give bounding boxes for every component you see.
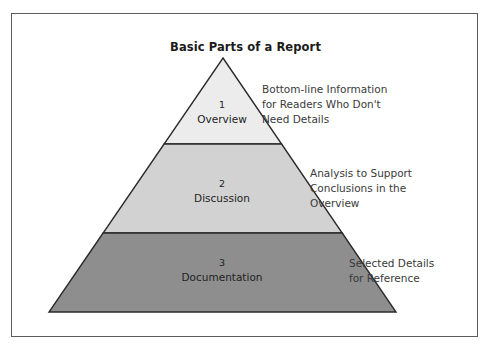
pyramid-level-3-shape[interactable] [49, 233, 396, 312]
pyramid-level-3-callout: Selected Details for Reference [349, 256, 489, 286]
figure-border: Basic Parts of a Report 1 Overview 2 Dis… [11, 13, 478, 337]
pyramid-diagram: 1 Overview 2 Discussion 3 Documentation … [12, 14, 479, 338]
pyramid-level-2-shape[interactable] [103, 144, 342, 233]
pyramid-level-1-callout: Bottom-line Information for Readers Who … [262, 82, 422, 127]
pyramid-level-2-callout: Analysis to Support Conclusions in the O… [310, 166, 470, 211]
figure-canvas: Basic Parts of a Report 1 Overview 2 Dis… [0, 0, 492, 352]
